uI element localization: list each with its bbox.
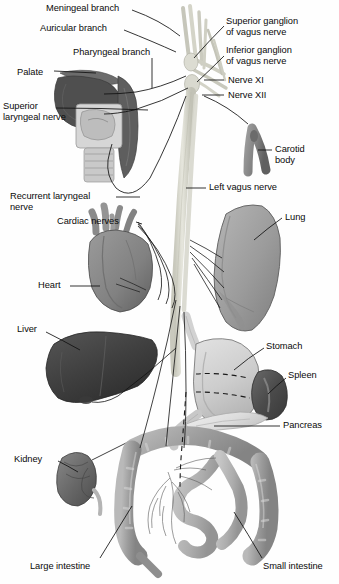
label-inferior-ganglion: Inferior ganglion of vagus nerve [226, 45, 292, 66]
label-recurrent-laryngeal-nerve: Recurrent laryngeal nerve [10, 191, 90, 212]
anatomy-artwork [0, 0, 339, 584]
label-carotid-body: Carotid body [275, 144, 305, 165]
carotid-body [204, 96, 266, 172]
label-pancreas: Pancreas [283, 420, 322, 431]
lung [190, 205, 280, 332]
label-lung: Lung [285, 212, 305, 223]
label-stomach: Stomach [266, 341, 302, 352]
label-heart: Heart [38, 280, 60, 291]
label-liver: Liver [17, 324, 37, 335]
liver [46, 332, 176, 404]
label-spleen: Spleen [288, 370, 317, 381]
label-small-intestine: Small intestine [263, 561, 323, 572]
label-superior-laryngeal-nerve: Superior laryngeal nerve [3, 101, 66, 122]
label-palate: Palate [17, 67, 43, 78]
label-kidney: Kidney [14, 454, 42, 465]
label-large-intestine: Large intestine [30, 561, 90, 572]
vagus-nerve-diagram: Meningeal branch Auricular branch Pharyn… [0, 0, 339, 584]
label-nerve-xii: Nerve XII [228, 90, 266, 101]
label-left-vagus-nerve: Left vagus nerve [209, 182, 277, 193]
small-intestine [148, 456, 242, 552]
label-superior-ganglion: Superior ganglion of vagus nerve [226, 16, 298, 37]
label-auricular-branch: Auricular branch [40, 23, 107, 34]
label-nerve-xi: Nerve XI [228, 75, 264, 86]
spleen [252, 370, 288, 420]
label-meningeal-branch: Meningeal branch [46, 3, 119, 14]
label-pharyngeal-branch: Pharyngeal branch [73, 47, 150, 58]
larynx [76, 104, 122, 148]
label-cardiac-nerves: Cardiac nerves [57, 216, 119, 227]
